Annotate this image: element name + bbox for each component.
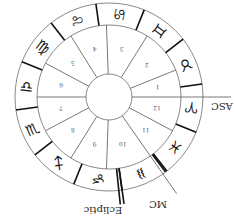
house-cusp-line <box>121 36 147 78</box>
house-cusp-line <box>45 108 88 131</box>
house-cusp-line <box>106 25 108 74</box>
mc-label: MC <box>149 199 167 210</box>
house-cusp-line <box>71 117 97 159</box>
sign-capricorn-icon: ♑ <box>89 172 109 188</box>
sign-libra-icon: ♎ <box>19 77 35 97</box>
sign-scorpio-icon: ♏ <box>23 118 43 140</box>
sign-cancer-icon: ♋ <box>109 7 129 23</box>
mc-double-line <box>152 155 165 173</box>
sign-boundary-line <box>176 124 196 132</box>
sign-boundary-line <box>35 141 52 155</box>
house-number-6: 6 <box>59 82 63 89</box>
house-number-12: 12 <box>153 105 161 112</box>
house-cusp-line <box>122 116 150 156</box>
house-number-7: 7 <box>59 105 63 112</box>
sign-leo-icon: ♌ <box>66 11 88 30</box>
house-number-8: 8 <box>71 127 75 134</box>
sign-boundary-line <box>166 39 183 53</box>
house-cusp-line <box>130 70 175 88</box>
sign-boundary-line <box>153 154 167 171</box>
sign-boundary-line <box>180 84 202 87</box>
sign-boundary-line <box>74 164 82 184</box>
mc-axis-line <box>150 156 176 194</box>
sign-boundary-line <box>16 107 38 110</box>
house-cusp-line <box>129 108 172 131</box>
sign-boundary-line <box>51 23 65 40</box>
sign-boundary-line <box>22 62 42 70</box>
house-cusp-line <box>45 63 88 86</box>
house-cusp-line <box>71 36 97 78</box>
asc-label: ASC <box>211 101 234 112</box>
house-number-5: 5 <box>71 60 75 67</box>
house-number-2: 2 <box>145 62 149 69</box>
house-cusp-line <box>106 120 108 169</box>
sign-boundary-line <box>96 4 99 26</box>
house-number-11: 11 <box>142 127 150 134</box>
inner-ring <box>86 74 132 120</box>
sign-aries-icon: ♈ <box>184 97 200 117</box>
house-number-4: 4 <box>92 46 96 53</box>
house-cusps <box>37 25 181 169</box>
house-number-9: 9 <box>92 141 96 148</box>
house-number-3: 3 <box>120 46 124 53</box>
house-number-10: 10 <box>119 141 127 148</box>
sign-taurus-icon: ♉ <box>176 54 195 76</box>
astrological-chart: ♈♉♊♋♌♍♎♏♐♑♒♓ 123456789101112 ASC MC Ecli… <box>0 0 235 218</box>
axis-labels: ASC MC Ecliptic <box>83 101 234 216</box>
ecliptic-label: Ecliptic <box>83 205 122 216</box>
sign-boundary-line <box>136 10 144 30</box>
house-number-1: 1 <box>156 84 160 91</box>
sign-aquarius-icon: ♒ <box>131 164 153 183</box>
